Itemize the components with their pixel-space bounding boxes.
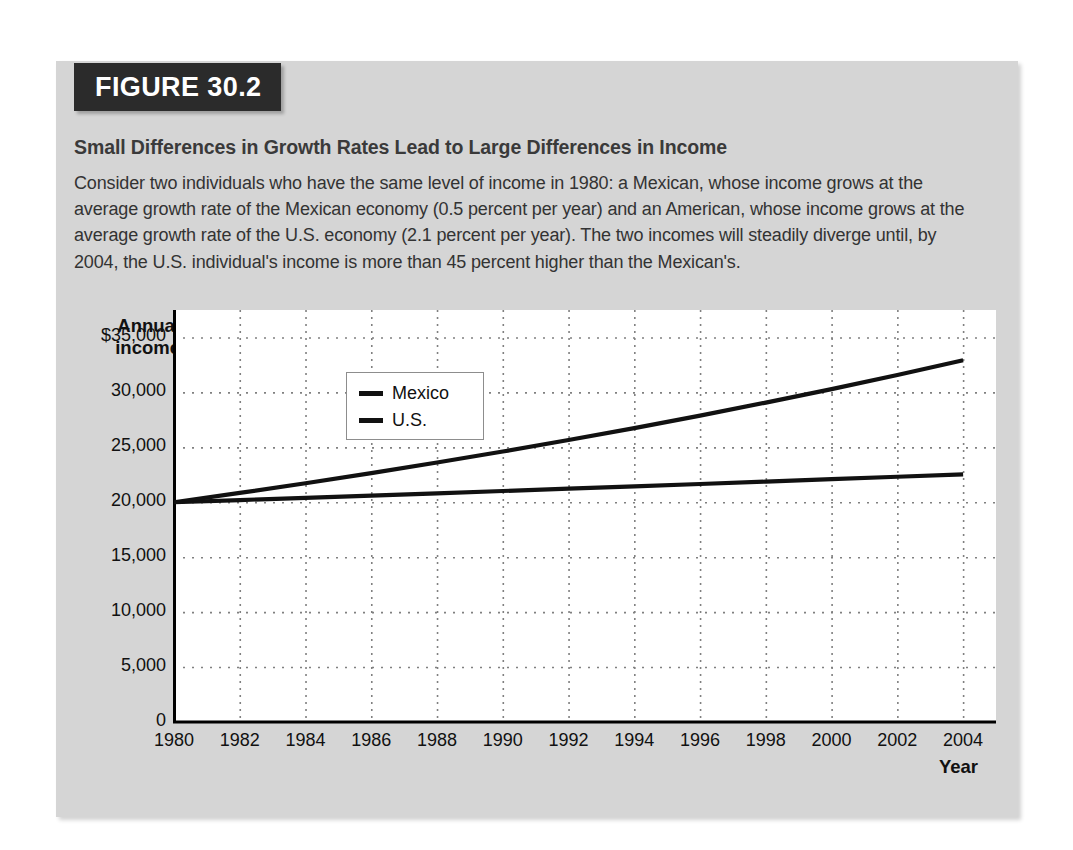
y-tick-label: 10,000 [66,600,166,621]
legend-label-us: U.S. [392,410,427,431]
plot-background [174,310,996,723]
x-tick-label: 2004 [933,730,993,751]
chart-area: Annual income Year $35,00030,00025,00020… [74,310,999,780]
x-tick-label: 2002 [867,730,927,751]
x-tick-label: 1982 [210,730,270,751]
x-tick-label: 1996 [670,730,730,751]
y-tick-label: 20,000 [66,490,166,511]
x-tick-label: 1994 [604,730,664,751]
figure-subtitle: Small Differences in Growth Rates Lead t… [74,136,954,159]
line-chart-svg [74,310,999,780]
x-tick-label: 1980 [144,730,204,751]
y-tick-label: 0 [66,710,166,731]
legend-item-us: U.S. [359,407,483,434]
legend-swatch-icon [359,391,383,396]
y-tick-label: $35,000 [66,325,166,346]
y-tick-label: 30,000 [66,380,166,401]
legend-swatch-icon [359,418,383,423]
y-tick-label: 15,000 [66,545,166,566]
x-tick-label: 1984 [276,730,336,751]
x-tick-label: 1988 [407,730,467,751]
y-tick-label: 5,000 [66,655,166,676]
x-tick-label: 2000 [802,730,862,751]
figure-number-label: FIGURE 30.2 [95,72,261,103]
x-tick-label: 1992 [539,730,599,751]
y-tick-label: 25,000 [66,435,166,456]
x-tick-label: 1998 [736,730,796,751]
figure-caption: Consider two individuals who have the sa… [74,170,979,275]
chart-legend: Mexico U.S. [346,372,484,440]
legend-item-mexico: Mexico [359,380,483,407]
x-tick-label: 1990 [473,730,533,751]
figure-root: FIGURE 30.2 Small Differences in Growth … [0,0,1073,850]
legend-label-mexico: Mexico [392,383,449,404]
x-tick-label: 1986 [341,730,401,751]
figure-number-tag: FIGURE 30.2 [74,63,281,111]
